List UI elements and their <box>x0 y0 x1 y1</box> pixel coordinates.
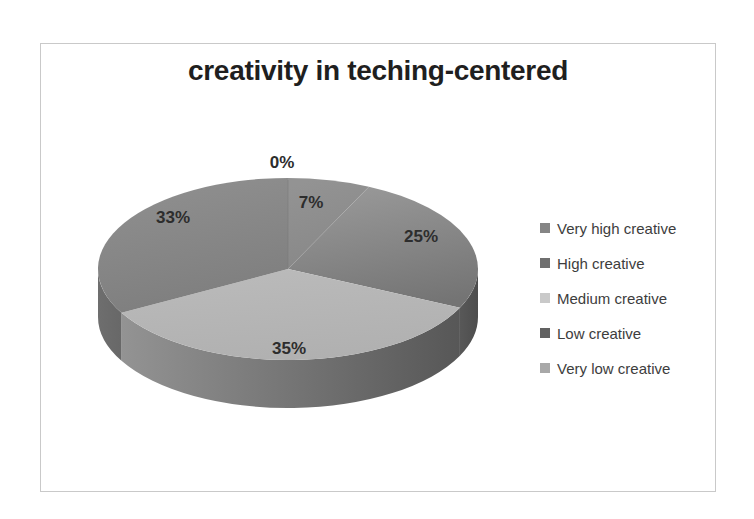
legend-marker-icon <box>540 363 550 373</box>
legend-item-4: Very low creative <box>540 360 676 376</box>
legend-item-2: Medium creative <box>540 290 676 306</box>
legend-label: Low creative <box>557 325 641 342</box>
pie-percent-label-4: 33% <box>156 208 190 228</box>
legend: Very high creativeHigh creativeMedium cr… <box>540 220 676 376</box>
legend-item-0: Very high creative <box>540 220 676 236</box>
legend-label: Very low creative <box>557 360 670 377</box>
legend-label: Very high creative <box>557 220 676 237</box>
pie-percent-label-0: 0% <box>270 153 295 173</box>
pie-percent-label-3: 35% <box>272 339 306 359</box>
legend-marker-icon <box>540 223 550 233</box>
legend-label: Medium creative <box>557 290 667 307</box>
pie-percent-label-2: 25% <box>404 227 438 247</box>
legend-marker-icon <box>540 328 550 338</box>
legend-marker-icon <box>540 293 550 303</box>
legend-marker-icon <box>540 258 550 268</box>
legend-item-3: Low creative <box>540 325 676 341</box>
legend-item-1: High creative <box>540 255 676 271</box>
legend-label: High creative <box>557 255 645 272</box>
pie-percent-label-1: 7% <box>299 193 324 213</box>
